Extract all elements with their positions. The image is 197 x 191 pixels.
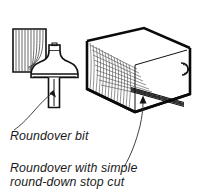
- caption-stop-cut-line-2: round-down stop cut: [10, 175, 125, 189]
- router-bit-bearing: [49, 43, 60, 51]
- illustration-figure: Roundover bit Roundover with simple roun…: [0, 0, 197, 191]
- woodworking-diagram: Roundover bit Roundover with simple roun…: [0, 0, 197, 191]
- caption-roundover-bit: Roundover bit: [10, 129, 89, 143]
- caption-stop-cut-line-1: Roundover with simple: [10, 161, 137, 175]
